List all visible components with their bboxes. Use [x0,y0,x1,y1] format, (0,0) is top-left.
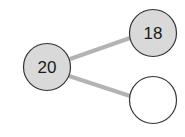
connector-top [70,38,130,59]
whole-circle: 20 [24,44,71,91]
whole-value: 20 [38,58,57,77]
number-bond-diagram: 20 18 [0,0,185,137]
part-value-top: 18 [144,24,163,43]
connector-bottom [69,76,130,96]
part-circle-bottom-empty [130,77,177,124]
part-circle-top: 18 [130,10,177,57]
